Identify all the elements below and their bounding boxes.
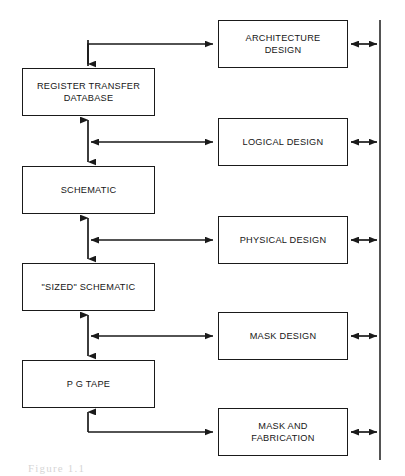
node-logical-design[interactable]: LOGICAL DESIGN (218, 118, 348, 166)
node-label: PHYSICAL DESIGN (237, 234, 330, 247)
node-label: MASK AND FABRICATION (248, 420, 317, 445)
node-register-transfer-database[interactable]: REGISTER TRANSFER DATABASE (22, 68, 155, 116)
node-physical-design[interactable]: PHYSICAL DESIGN (218, 216, 348, 264)
node-mask-design[interactable]: MASK DESIGN (218, 312, 348, 360)
node-pg-tape[interactable]: P G TAPE (22, 360, 155, 408)
node-sized-schematic[interactable]: "SIZED" SCHEMATIC (22, 263, 155, 311)
node-label: LOGICAL DESIGN (240, 136, 327, 149)
figure-caption-area: Figure 1.1 (0, 460, 405, 476)
node-schematic[interactable]: SCHEMATIC (22, 166, 155, 214)
figure-caption: Figure 1.1 (28, 462, 85, 474)
design-flow-diagram: REGISTER TRANSFER DATABASE SCHEMATIC "SI… (0, 0, 405, 476)
node-label: MASK DESIGN (247, 330, 320, 343)
node-mask-and-fabrication[interactable]: MASK AND FABRICATION (218, 408, 348, 456)
node-architecture-design[interactable]: ARCHITECTURE DESIGN (218, 20, 348, 68)
connector-architecture-to-database (88, 44, 213, 66)
node-label: "SIZED" SCHEMATIC (39, 281, 139, 294)
node-label: P G TAPE (64, 378, 113, 391)
node-label: ARCHITECTURE DESIGN (243, 32, 324, 57)
node-label: SCHEMATIC (58, 184, 120, 197)
node-label: REGISTER TRANSFER DATABASE (34, 80, 143, 105)
